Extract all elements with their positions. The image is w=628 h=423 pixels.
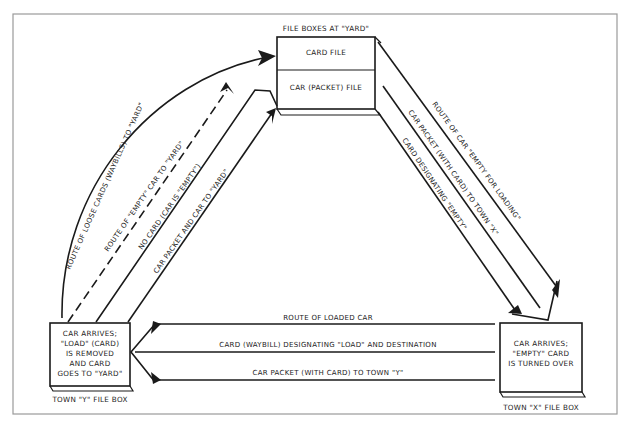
left-arrowhead-upper (151, 321, 161, 334)
town-y-line-5: GOES TO "YARD" (57, 369, 122, 378)
waybill-label: CARD (WAYBILL) DESIGNATING "LOAD" AND DE… (219, 341, 436, 349)
car-packet-to-x-line (383, 86, 540, 308)
car-packet-to-y-label: CAR PACKET (WITH CARD) TO TOWN "Y" (252, 369, 403, 377)
yard-box-base (277, 109, 380, 115)
left-edges: ROUTE OF LOOSE CARDS (WAYBILLS) TO "YARD… (62, 50, 277, 322)
town-y-file-box: CAR ARRIVES; "LOAD" (CARD) IS REMOVED AN… (50, 323, 133, 404)
town-y-line-4: AND CARD (70, 359, 111, 368)
town-x-caption: TOWN "X" FILE BOX (502, 403, 579, 412)
empty-for-loading-line (378, 42, 556, 286)
yard-car-packet-file-label: CAR (PACKET) FILE (290, 83, 362, 92)
right-edges: ROUTE OF CAR "EMPTY FOR LOADING" CAR PAC… (378, 42, 560, 320)
loose-cards-curve (62, 57, 268, 318)
diagram-frame: FILE BOXES AT "YARD" CARD FILE CAR (PACK… (0, 0, 628, 423)
loaded-car-label: ROUTE OF LOADED CAR (283, 314, 373, 322)
town-y-line-1: CAR ARRIVES; (63, 329, 117, 338)
car-packet-to-yard-arrowhead (266, 108, 276, 124)
yard-card-file-label: CARD FILE (306, 48, 346, 57)
card-empty-line (378, 112, 515, 310)
yard-file-boxes: FILE BOXES AT "YARD" CARD FILE CAR (PACK… (277, 24, 381, 115)
car-card-flow-diagram: FILE BOXES AT "YARD" CARD FILE CAR (PACK… (0, 0, 628, 423)
no-card-label: NO CARD (CAR IS "EMPTY") (137, 162, 203, 251)
no-card-line (96, 90, 277, 322)
town-x-line-1: CAR ARRIVES; (514, 339, 568, 348)
empty-car-arrowhead (220, 82, 234, 94)
yard-caption: FILE BOXES AT "YARD" (283, 24, 369, 33)
right-arrowhead-lower (508, 305, 522, 314)
bottom-edges: ROUTE OF LOADED CAR CARD (WAYBILL) DESIG… (131, 314, 495, 384)
town-x-line-2: "EMPTY" CARD (513, 349, 570, 358)
town-x-line-3: IS TURNED OVER (508, 359, 574, 368)
town-y-line-2: "LOAD" (CARD) (61, 339, 120, 348)
car-packet-to-yard-line (128, 113, 272, 322)
left-arrowhead-lower (151, 372, 161, 384)
town-x-file-box: CAR ARRIVES; "EMPTY" CARD IS TURNED OVER… (500, 323, 585, 412)
town-y-caption: TOWN "Y" FILE BOX (51, 395, 127, 404)
town-y-line-3: IS REMOVED (66, 349, 114, 358)
